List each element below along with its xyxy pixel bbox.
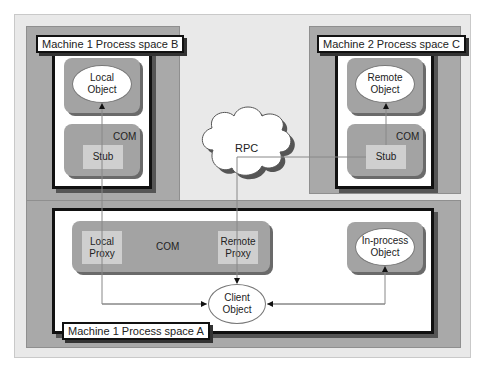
- inprocess-connection-line: [267, 267, 385, 304]
- rpc-label: RPC: [235, 142, 258, 154]
- local-connection-line: [102, 104, 207, 304]
- connectors: [0, 0, 486, 375]
